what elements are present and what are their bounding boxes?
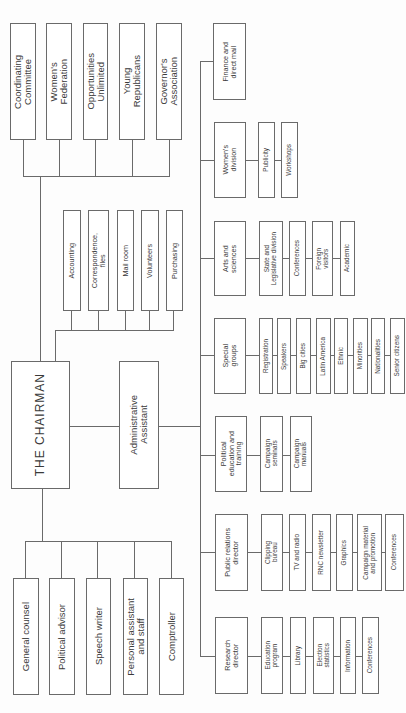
- node-correspondence-files: Correspondence, files: [88, 210, 109, 311]
- connector: [200, 552, 215, 553]
- node-ethnic: Ethnic: [334, 318, 348, 394]
- connector: [200, 258, 214, 259]
- node-education-program: Education program: [261, 617, 283, 694]
- node-purchasing: Purchasing: [166, 210, 183, 311]
- node-general-counsel: General counsel: [13, 578, 39, 695]
- node-special-groups: Special groups: [214, 318, 246, 394]
- connector: [200, 355, 214, 356]
- connector: [61, 541, 62, 578]
- node-womens-division: Women's division: [214, 122, 246, 198]
- node-label: General counsel: [21, 602, 31, 671]
- connector: [55, 330, 56, 361]
- node-label: TV and radio: [294, 534, 301, 571]
- connector: [23, 176, 170, 177]
- connector: [23, 140, 24, 176]
- connector: [125, 311, 126, 330]
- node-clipping-bureau: Clipping bureau: [261, 514, 283, 591]
- connector: [173, 311, 174, 330]
- connector: [95, 140, 96, 176]
- node-comptroller: Comptroller: [159, 578, 184, 695]
- node-label: Workshops: [286, 144, 293, 176]
- node-workshops: Workshops: [281, 122, 298, 198]
- node-young-republicans: Young Republicans: [119, 23, 145, 140]
- node-label: Publicity: [263, 148, 270, 172]
- node-label: Academic: [344, 244, 351, 272]
- node-speakers: Speakers: [277, 318, 291, 394]
- node-label: Research director: [224, 640, 239, 671]
- node-election-statistics: Election statistics: [313, 617, 334, 694]
- node-label: Opportunities Unlimited: [86, 53, 106, 110]
- node-arts-conferences: Conferences: [289, 221, 306, 296]
- connector: [200, 455, 215, 456]
- node-the-chairman: THE CHAIRMAN: [11, 361, 70, 489]
- node-label: Speech writer: [94, 607, 104, 665]
- node-label: Campaign seminars: [265, 439, 278, 468]
- node-label: Library: [295, 646, 302, 666]
- node-label: Clipping bureau: [265, 541, 278, 564]
- node-label: Election statistics: [317, 643, 330, 668]
- node-label: Conferences: [391, 534, 398, 570]
- node-label: Arts and sciences: [222, 245, 237, 273]
- connector: [70, 426, 119, 427]
- connector: [200, 656, 215, 657]
- node-political-advisor: Political advisor: [49, 578, 75, 695]
- node-campaign-manuals: Campaign manuals: [290, 416, 312, 492]
- node-political-education: Political education and training: [215, 416, 247, 492]
- node-big-cities: Big cities: [296, 318, 311, 394]
- connector: [40, 176, 41, 361]
- node-mail-room: Mail room: [117, 210, 134, 311]
- node-administrative-assistant: Administrative Assistant: [119, 361, 159, 489]
- node-campaign-material: Campaign material and promotion: [357, 514, 382, 591]
- connector: [200, 61, 214, 62]
- node-opportunities-unlimited: Opportunities Unlimited: [83, 23, 108, 140]
- connector: [59, 140, 60, 176]
- node-label: Campaign manuals: [294, 439, 307, 468]
- node-label: Conferences: [294, 240, 301, 276]
- node-library: Library: [290, 617, 306, 694]
- node-coordinating-committee: Coordinating Committee: [10, 23, 36, 140]
- node-label: Women's division: [222, 145, 237, 175]
- node-accounting: Accounting: [63, 210, 81, 311]
- node-label: Senior citizens: [394, 335, 401, 377]
- division-spine: [200, 61, 201, 657]
- node-label: Political advisor: [57, 604, 67, 670]
- node-arts-sciences: Arts and sciences: [214, 221, 246, 296]
- connector: [71, 311, 72, 330]
- node-label: State and Legislative division: [264, 232, 277, 285]
- org-chart: Coordinating Committee Women's Federatio…: [0, 0, 406, 713]
- connector: [171, 541, 172, 578]
- node-label: Foreign visitors: [316, 248, 329, 270]
- node-label: Education program: [265, 641, 278, 669]
- node-label: Accounting: [68, 243, 76, 279]
- node-state-legislative: State and Legislative division: [259, 221, 283, 296]
- node-label: Young Republicans: [122, 55, 142, 107]
- node-label: RNC newsletter: [318, 530, 325, 575]
- node-womens-federation: Women's Federation: [46, 23, 72, 140]
- node-tv-radio: TV and radio: [289, 514, 306, 591]
- node-label: Governor's Association: [159, 57, 179, 106]
- node-label: Big cities: [300, 343, 307, 369]
- node-label: Volunteers: [146, 244, 154, 278]
- node-campaign-seminars: Campaign seminars: [260, 416, 283, 492]
- node-label: Purchasing: [171, 243, 179, 279]
- node-research-conferences: Conferences: [362, 617, 379, 694]
- node-label: Minorities: [357, 342, 364, 369]
- node-research-director: Research director: [215, 617, 248, 694]
- node-label: Graphics: [341, 540, 348, 566]
- node-pr-conferences: Conferences: [385, 514, 404, 591]
- node-graphics: Graphics: [336, 514, 353, 591]
- node-volunteers: Volunteers: [141, 210, 159, 311]
- connector: [159, 426, 200, 427]
- node-label: Women's Federation: [49, 59, 69, 104]
- connector: [98, 311, 99, 330]
- node-foreign-visitors: Foreign visitors: [312, 221, 333, 296]
- connector: [200, 160, 214, 161]
- connector: [55, 330, 174, 331]
- node-label: Latin America: [320, 337, 327, 376]
- connector: [42, 489, 43, 541]
- node-information: Information: [340, 617, 356, 694]
- node-minorities: Minorities: [353, 318, 368, 394]
- node-label: Public relations director: [224, 528, 239, 577]
- node-speech-writer: Speech writer: [86, 578, 111, 695]
- node-label: Registration: [263, 339, 270, 373]
